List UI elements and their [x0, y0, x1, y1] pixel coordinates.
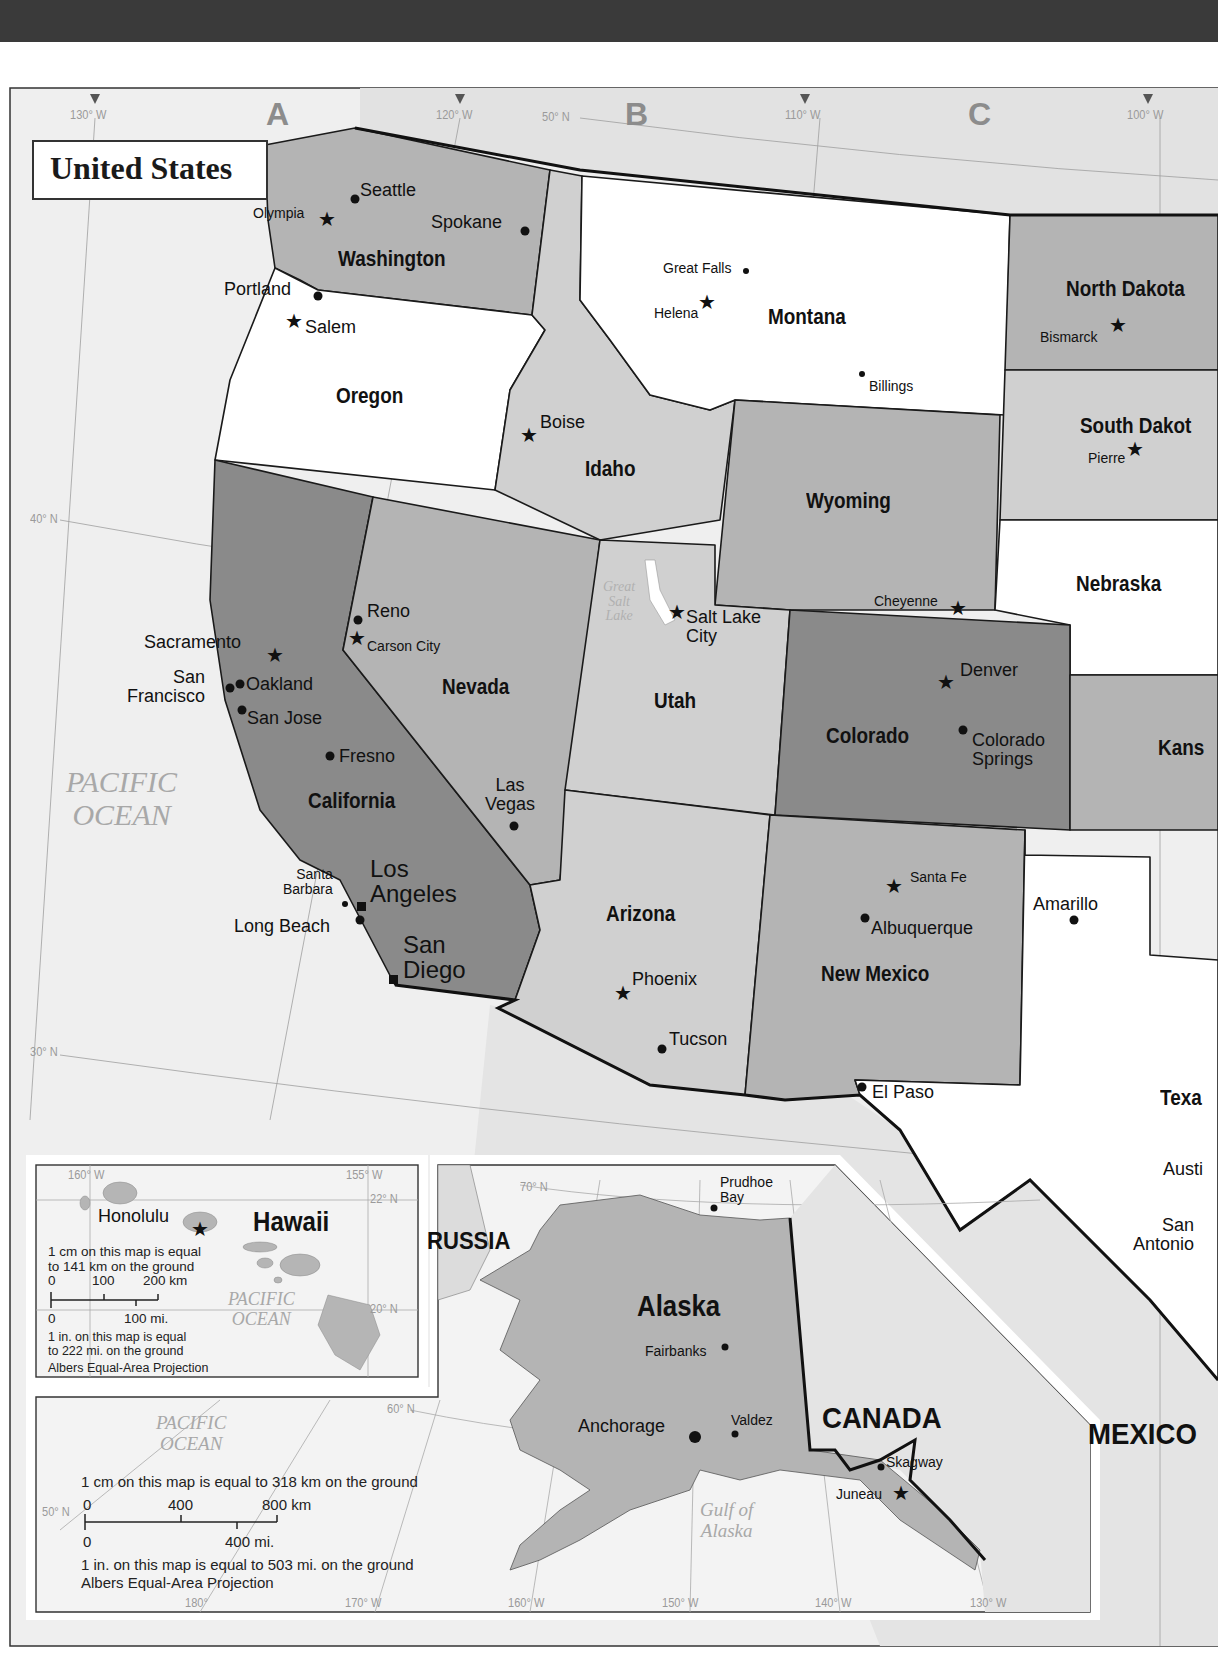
city-olympia: Olympia: [253, 206, 304, 221]
city-salt-lake-city: Salt Lake City: [686, 608, 761, 646]
city-spokane: Spokane: [431, 213, 502, 232]
city-prudhoe-bay: Prudhoe Bay: [720, 1175, 773, 1204]
hawaii-scale-note-metric: 1 cm on this map is equal to 141 km on t…: [48, 1245, 201, 1275]
city-santa-barbara: Santa Barbara: [283, 867, 333, 896]
svg-text:★: ★: [1126, 437, 1144, 461]
city-austin: Austi: [1163, 1160, 1203, 1179]
label-pacific-ocean: PACIFIC OCEAN: [66, 765, 177, 831]
alaska-graticule-170w: 170° W: [345, 1596, 381, 1610]
svg-text:★: ★: [885, 874, 903, 898]
state-label-washington: Washington: [338, 247, 446, 270]
city-juneau: Juneau: [836, 1487, 882, 1502]
city-amarillo: Amarillo: [1033, 895, 1098, 914]
alaska-scale-km-800: 800 km: [262, 1496, 311, 1514]
city-valdez: Valdez: [731, 1413, 773, 1428]
alaska-graticule-140w: 140° W: [815, 1596, 851, 1610]
city-boise: Boise: [540, 413, 585, 432]
hawaii-graticule-155w: 155° W: [346, 1168, 382, 1182]
state-label-south-dakota: South Dakot: [1080, 414, 1191, 437]
map-title-box: United States: [32, 140, 268, 200]
alaska-scale-mi-0: 0: [83, 1533, 91, 1551]
state-label-arizona: Arizona: [606, 902, 675, 925]
svg-text:★: ★: [285, 309, 303, 333]
svg-text:★: ★: [614, 981, 632, 1005]
city-san-antonio: San Antonio: [1133, 1216, 1194, 1254]
graticule-40n: 40° N: [30, 512, 58, 526]
hawaii-projection: Albers Equal-Area Projection: [48, 1362, 209, 1376]
city-portland: Portland: [224, 280, 291, 299]
alaska-scale-mi-400: 400 mi.: [225, 1533, 274, 1551]
svg-text:★: ★: [937, 670, 955, 694]
city-billings: Billings: [869, 379, 913, 394]
alaska-scale-note-metric: 1 cm on this map is equal to 318 km on t…: [81, 1473, 418, 1491]
svg-text:★: ★: [892, 1481, 910, 1505]
city-san-jose: San Jose: [247, 709, 322, 728]
state-label-nevada: Nevada: [442, 675, 509, 698]
hawaii-graticule-22n: 22° N: [370, 1192, 398, 1206]
city-reno: Reno: [367, 602, 410, 621]
city-las-vegas: Las Vegas: [485, 776, 535, 814]
alaska-graticule-50n: 50° N: [42, 1505, 70, 1519]
state-label-california: California: [308, 789, 395, 812]
state-label-new-mexico: New Mexico: [821, 962, 929, 985]
graticule-110w: 110° W: [785, 108, 821, 122]
alaska-graticule-70n: 70° N: [520, 1180, 548, 1194]
svg-text:★: ★: [668, 600, 686, 624]
state-label-north-dakota: North Dakota: [1066, 277, 1185, 300]
alaska-graticule-130w: 130° W: [970, 1596, 1006, 1610]
city-seattle: Seattle: [360, 181, 416, 200]
hawaii-scale-mi-100: 100 mi.: [124, 1312, 168, 1327]
graticule-50n: 50° N: [542, 110, 570, 124]
svg-text:★: ★: [520, 423, 538, 447]
hawaii-scale-mi-0: 0: [48, 1312, 56, 1327]
label-canada: CANADA: [822, 1402, 942, 1434]
city-san-diego: San Diego: [403, 932, 466, 982]
alaska-scale-km-0: 0: [83, 1496, 91, 1514]
svg-text:★: ★: [348, 626, 366, 650]
graticule-100w: 100° W: [1127, 108, 1163, 122]
svg-text:★: ★: [1109, 313, 1127, 337]
grid-letter-b: B: [625, 98, 648, 132]
city-carson-city: Carson City: [367, 639, 440, 654]
alaska-label-gulf: Gulf of Alaska: [700, 1500, 753, 1542]
hawaii-label-pacific: PACIFIC OCEAN: [228, 1290, 295, 1330]
state-label-utah: Utah: [654, 689, 696, 712]
state-label-texas: Texa: [1160, 1086, 1202, 1109]
hawaii-scale-km-200: 200 km: [143, 1274, 187, 1289]
graticule-30n: 30° N: [30, 1045, 58, 1059]
state-label-kansas: Kans: [1158, 736, 1204, 759]
alaska-label-pacific: PACIFIC OCEAN: [156, 1413, 226, 1455]
svg-text:★: ★: [191, 1217, 209, 1241]
city-denver: Denver: [960, 661, 1018, 680]
alaska-scale-km-400: 400: [168, 1496, 193, 1514]
state-label-idaho: Idaho: [585, 457, 635, 480]
city-santa-fe: Santa Fe: [910, 870, 967, 885]
city-skagway: Skagway: [886, 1455, 943, 1470]
state-label-alaska: Alaska: [637, 1290, 720, 1322]
alaska-scale-note-imperial: 1 in. on this map is equal to 503 mi. on…: [81, 1556, 414, 1574]
alaska-projection: Albers Equal-Area Projection: [81, 1574, 274, 1592]
grid-letter-c: C: [968, 98, 991, 132]
svg-text:★: ★: [318, 207, 336, 231]
alaska-graticule-150w: 150° W: [662, 1596, 698, 1610]
city-colorado-springs: Colorado Springs: [972, 731, 1045, 769]
state-label-hawaii: Hawaii: [253, 1207, 329, 1236]
hawaii-scale-km-100: 100: [92, 1274, 115, 1289]
city-great-falls: Great Falls: [663, 261, 731, 276]
city-sacramento: Sacramento: [144, 633, 241, 652]
state-label-oregon: Oregon: [336, 384, 403, 407]
city-anchorage: Anchorage: [578, 1417, 665, 1436]
svg-text:★: ★: [698, 290, 716, 314]
label-great-salt-lake: Great Salt Lake: [603, 580, 635, 624]
grid-letter-a: A: [266, 98, 289, 132]
alaska-graticule-60n: 60° N: [387, 1402, 415, 1416]
city-san-francisco: San Francisco: [127, 668, 205, 706]
city-bismarck: Bismarck: [1040, 330, 1098, 345]
city-phoenix: Phoenix: [632, 970, 697, 989]
alaska-graticule-180: 180°: [185, 1596, 208, 1610]
label-russia: RUSSIA: [427, 1228, 510, 1253]
city-long-beach: Long Beach: [234, 917, 330, 936]
city-oakland: Oakland: [246, 675, 313, 694]
city-salem: Salem: [305, 318, 356, 337]
hawaii-graticule-20n: 20° N: [370, 1302, 398, 1316]
